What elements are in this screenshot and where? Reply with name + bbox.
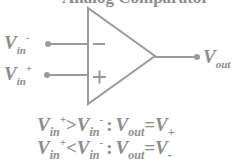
eq-separator: :	[106, 114, 112, 135]
noninverting-input-terminal-icon	[44, 72, 50, 78]
eq-term: V	[37, 137, 50, 158]
eq-equals: =	[144, 137, 155, 158]
eq-term: V	[116, 114, 129, 135]
label-sub: in	[17, 44, 26, 56]
eq-sup: -	[100, 113, 104, 125]
eq-operator: >	[66, 114, 77, 135]
eq-sub: in	[90, 148, 100, 162]
input-label-inverting: Vin-	[4, 33, 29, 52]
label-sup: -	[26, 32, 29, 43]
eq-sup: +	[60, 113, 66, 125]
eq-equals: =	[144, 114, 155, 135]
input-label-noninverting: Vin+	[4, 64, 32, 83]
label-sub: out	[216, 58, 231, 70]
output-terminal-icon	[194, 54, 200, 60]
eq-sub: out	[128, 125, 144, 139]
eq-term: V	[77, 114, 90, 135]
label-name: V	[203, 46, 216, 67]
eq-operator: <	[66, 137, 77, 158]
label-name: V	[4, 63, 17, 84]
eq-term: V	[155, 137, 168, 158]
output-label: Vout	[203, 47, 230, 66]
eq-sub: in	[50, 125, 60, 139]
eq-term: V	[37, 114, 50, 135]
eq-separator: :	[106, 137, 112, 158]
equation-low: Vin+<Vin-:Vout=V-	[37, 138, 217, 157]
label-sub: in	[17, 75, 26, 87]
label-sup: +	[26, 63, 32, 74]
eq-term: V	[77, 137, 90, 158]
comparator-diagram: Analog Comparator Vin- Vin+ Vout Vin+>Vi…	[0, 0, 241, 168]
op-amp-triangle	[88, 8, 155, 104]
eq-sub: in	[90, 125, 100, 139]
label-name: V	[4, 32, 17, 53]
eq-sup: +	[60, 136, 66, 148]
inverting-input-terminal-icon	[45, 41, 51, 47]
eq-sub: out	[128, 148, 144, 162]
eq-sub: -	[168, 148, 172, 162]
eq-term: V	[155, 114, 168, 135]
eq-sup: -	[100, 136, 104, 148]
eq-term: V	[116, 137, 129, 158]
equation-high: Vin+>Vin-:Vout=V+	[37, 115, 217, 134]
eq-sub: +	[168, 125, 175, 139]
eq-sub: in	[50, 148, 60, 162]
